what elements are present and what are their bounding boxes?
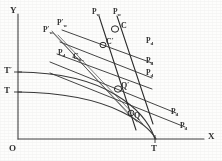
pw-prime-upper-sub: w	[64, 23, 68, 28]
q-prime-mark: ′	[127, 80, 129, 88]
pw-top-2-sub: w	[118, 12, 122, 17]
marker-C	[111, 26, 118, 32]
point-label-c-one: C1	[73, 53, 81, 61]
pw-top-1-base: P	[92, 7, 97, 16]
point-label-c: C	[121, 22, 127, 30]
pd-r4-base: P	[171, 107, 176, 116]
figure-canvas: Y X O T′ T T Pw Pw P′w P′w Pd Pd Pd Pd P…	[0, 0, 222, 161]
pd-r3-sub: d	[151, 73, 154, 78]
pw-label-top-1: Pw	[92, 8, 100, 16]
pd-r2-sub: d	[151, 61, 154, 66]
domestic-price-lines	[50, 30, 185, 127]
point-label-q-prime: Q′	[121, 82, 129, 90]
pd-line-5	[50, 73, 185, 127]
c-one-base: C	[73, 52, 79, 61]
c-prime-base: C	[106, 37, 112, 46]
c-one-sub: 1	[79, 57, 82, 62]
pd-label-right-5: Pd	[180, 122, 187, 130]
pd-r5-sub: d	[185, 126, 188, 131]
pd-r3-base: P	[146, 68, 151, 77]
pw-prime-line-3	[52, 31, 132, 118]
pw-top-1-sub: w	[97, 12, 101, 17]
pd-r1-sub: d	[151, 41, 154, 46]
pw-prime-upper-base: P	[57, 18, 62, 27]
x-axis-label: X	[208, 132, 215, 141]
pd-label-right-2: Pd	[146, 57, 153, 65]
point-label-q: Q	[134, 112, 140, 120]
x-tick-label-t: T	[151, 144, 157, 153]
pw-prime-lower-base: P	[43, 25, 48, 34]
pd-label-right-1: Pd	[146, 37, 153, 45]
y-tick-t-prime-mark: ′	[10, 65, 12, 73]
pw-line-1	[99, 16, 136, 130]
pw-top-2-base: P	[113, 7, 118, 16]
c-prime-mark: ′	[112, 36, 114, 44]
origin-label: O	[9, 144, 16, 153]
pw-prime-label-lower: P′w	[43, 26, 53, 34]
pd-r5-base: P	[180, 121, 185, 130]
y-tick-label-t-prime: T′	[4, 66, 12, 75]
pw-label-top-2: Pw	[113, 8, 121, 16]
pd-label-right-3: Pd	[146, 69, 153, 77]
world-price-lines	[99, 16, 153, 130]
pd-r2-base: P	[146, 56, 151, 65]
point-label-c-prime: C′	[106, 38, 114, 46]
y-tick-label-t: T	[4, 86, 10, 95]
pd-r4-sub: d	[176, 112, 179, 117]
pd-label-left: Pd	[58, 49, 65, 57]
pw-prime-lower-sub: w	[50, 30, 54, 35]
pd-left-sub: d	[63, 53, 66, 58]
pd-left-base: P	[58, 48, 63, 57]
pd-r1-base: P	[146, 36, 151, 45]
pd-line-4	[50, 62, 176, 113]
y-axis-label: Y	[10, 6, 17, 15]
pw-prime-label-upper: P′w	[57, 19, 67, 27]
diagram-svg	[0, 0, 222, 161]
pd-label-right-4: Pd	[171, 108, 178, 116]
